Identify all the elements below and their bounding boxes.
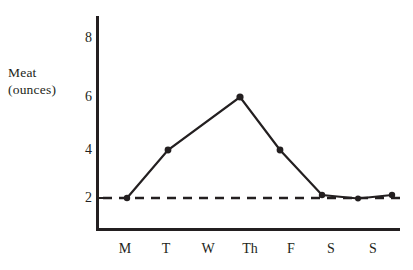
data-point-saturday <box>319 192 325 198</box>
meat-consumption-line-chart: Meat (ounces) 8 6 4 2 M T W Th F S S <box>0 0 413 270</box>
data-point-sunday <box>355 196 361 202</box>
data-point-end <box>389 192 395 198</box>
plot-area <box>0 0 413 270</box>
data-point-monday <box>124 195 130 201</box>
data-point-thursday <box>236 93 243 100</box>
data-point-tuesday <box>165 147 172 154</box>
data-point-friday <box>277 147 284 154</box>
